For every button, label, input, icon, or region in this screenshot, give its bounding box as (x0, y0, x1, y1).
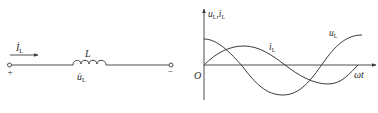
curve-iL-label: iL (269, 42, 276, 53)
voltage-label: u̇L (77, 71, 86, 83)
minus-sign: − (167, 66, 172, 76)
inductor-coil (73, 60, 106, 65)
current-label: İL (15, 42, 23, 54)
plus-sign: + (7, 67, 12, 77)
diagram-canvas: İL L u̇L + − uL,iL ωt O uL iL (0, 0, 378, 113)
waveform-chart: uL,iL ωt O uL iL (194, 9, 376, 100)
inductor-circuit: İL L u̇L + − (7, 42, 173, 83)
x-axis-label: ωt (354, 69, 364, 80)
inductor-label: L (84, 48, 91, 59)
y-axis-label: uL,iL (208, 9, 225, 20)
curve-uL-label: uL (329, 28, 338, 39)
origin-label: O (194, 70, 201, 81)
